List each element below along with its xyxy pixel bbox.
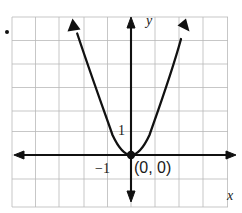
x-axis-arrow-right [226, 151, 236, 159]
vertex-point-marker [127, 151, 135, 159]
y-unit-tick-label: 1 [118, 124, 125, 138]
parabola-arrow-left [68, 19, 81, 32]
x-unit-tick-label: −1 [95, 162, 110, 176]
vertex-point-label: (0, 0) [134, 160, 171, 176]
y-axis-label: y [146, 14, 152, 28]
y-axis-arrow-up [127, 17, 135, 28]
x-axis-arrow-left [14, 151, 24, 159]
parabola-curve [68, 19, 190, 156]
parabola-graph-figure [0, 0, 242, 213]
parabola-path [77, 34, 181, 156]
x-axis-label: x [227, 189, 233, 203]
y-axis-arrow-down [127, 191, 135, 202]
grid-lines [12, 17, 228, 207]
